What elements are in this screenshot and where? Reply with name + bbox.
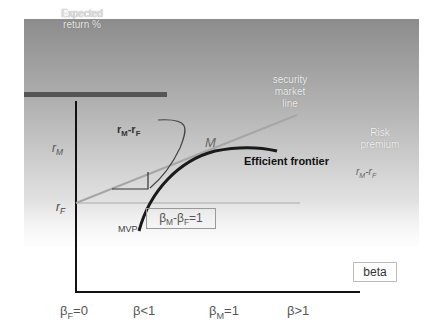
risk-premium-label: Risk premium bbox=[350, 127, 410, 151]
sml-label-line1: security bbox=[250, 74, 330, 86]
tick-eq1: =1 bbox=[224, 303, 239, 318]
sub-m: M bbox=[56, 147, 63, 157]
x-axis-label: beta bbox=[353, 262, 397, 282]
tick-beta-lt1: β<1 bbox=[133, 303, 155, 318]
tick-eq0: =0 bbox=[73, 303, 88, 318]
risk-premium-formula: rM-rF bbox=[356, 166, 376, 179]
rm-label: rM bbox=[52, 141, 63, 157]
tick-beta-gt1: β>1 bbox=[287, 303, 309, 318]
y-axis-label: Expected return % bbox=[42, 8, 122, 30]
efficient-frontier-label: Efficient frontier bbox=[244, 155, 329, 167]
tick-beta-m: βM=1 bbox=[209, 303, 239, 321]
y-axis-label-line1: Expected bbox=[42, 8, 122, 19]
sub-f: F bbox=[60, 206, 65, 216]
header-bar bbox=[24, 92, 167, 97]
tick-beta-f: βF=0 bbox=[60, 303, 88, 321]
rf-label: rF bbox=[56, 200, 65, 216]
risk-premium-line1: Risk bbox=[350, 127, 410, 139]
risk-premium-line2: premium bbox=[350, 139, 410, 151]
sub-m: M bbox=[216, 311, 224, 321]
sub-f: F bbox=[136, 129, 141, 138]
rm-rf-label: rM-rF bbox=[117, 123, 140, 138]
sub-f: F bbox=[372, 172, 376, 179]
equals-one: =1 bbox=[189, 211, 203, 225]
sml-label: security market line bbox=[250, 74, 330, 110]
market-portfolio-label: M bbox=[205, 135, 216, 150]
sml-label-line2: market bbox=[250, 86, 330, 98]
beta-difference-box: βM-βF=1 bbox=[146, 208, 216, 229]
mvp-label: MVP bbox=[118, 224, 138, 234]
beta-symbol: β bbox=[177, 211, 184, 225]
y-axis-label-line2: return % bbox=[42, 19, 122, 30]
sml-label-line3: line bbox=[250, 98, 330, 110]
